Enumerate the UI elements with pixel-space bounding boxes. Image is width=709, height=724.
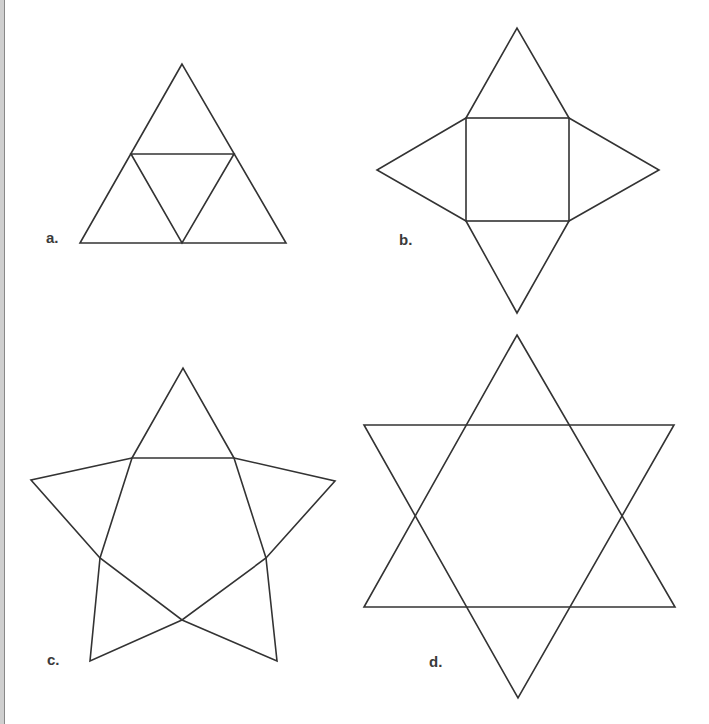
panel-c-label: c. (47, 651, 60, 668)
panel-b: b. (377, 28, 659, 313)
panel-a: a. (46, 64, 286, 246)
pentagon-star-net-shape (31, 368, 335, 661)
hexagram-shape (364, 335, 675, 698)
subdivided-triangle-shape (80, 64, 286, 243)
panel-a-label: a. (46, 229, 59, 246)
panel-d: d. (364, 335, 675, 698)
panel-c: c. (31, 368, 335, 668)
nets-figure: a. b. c. d. (0, 0, 709, 724)
square-pyramid-net-shape (377, 28, 659, 313)
panel-d-label: d. (429, 653, 442, 670)
panel-b-label: b. (399, 231, 412, 248)
